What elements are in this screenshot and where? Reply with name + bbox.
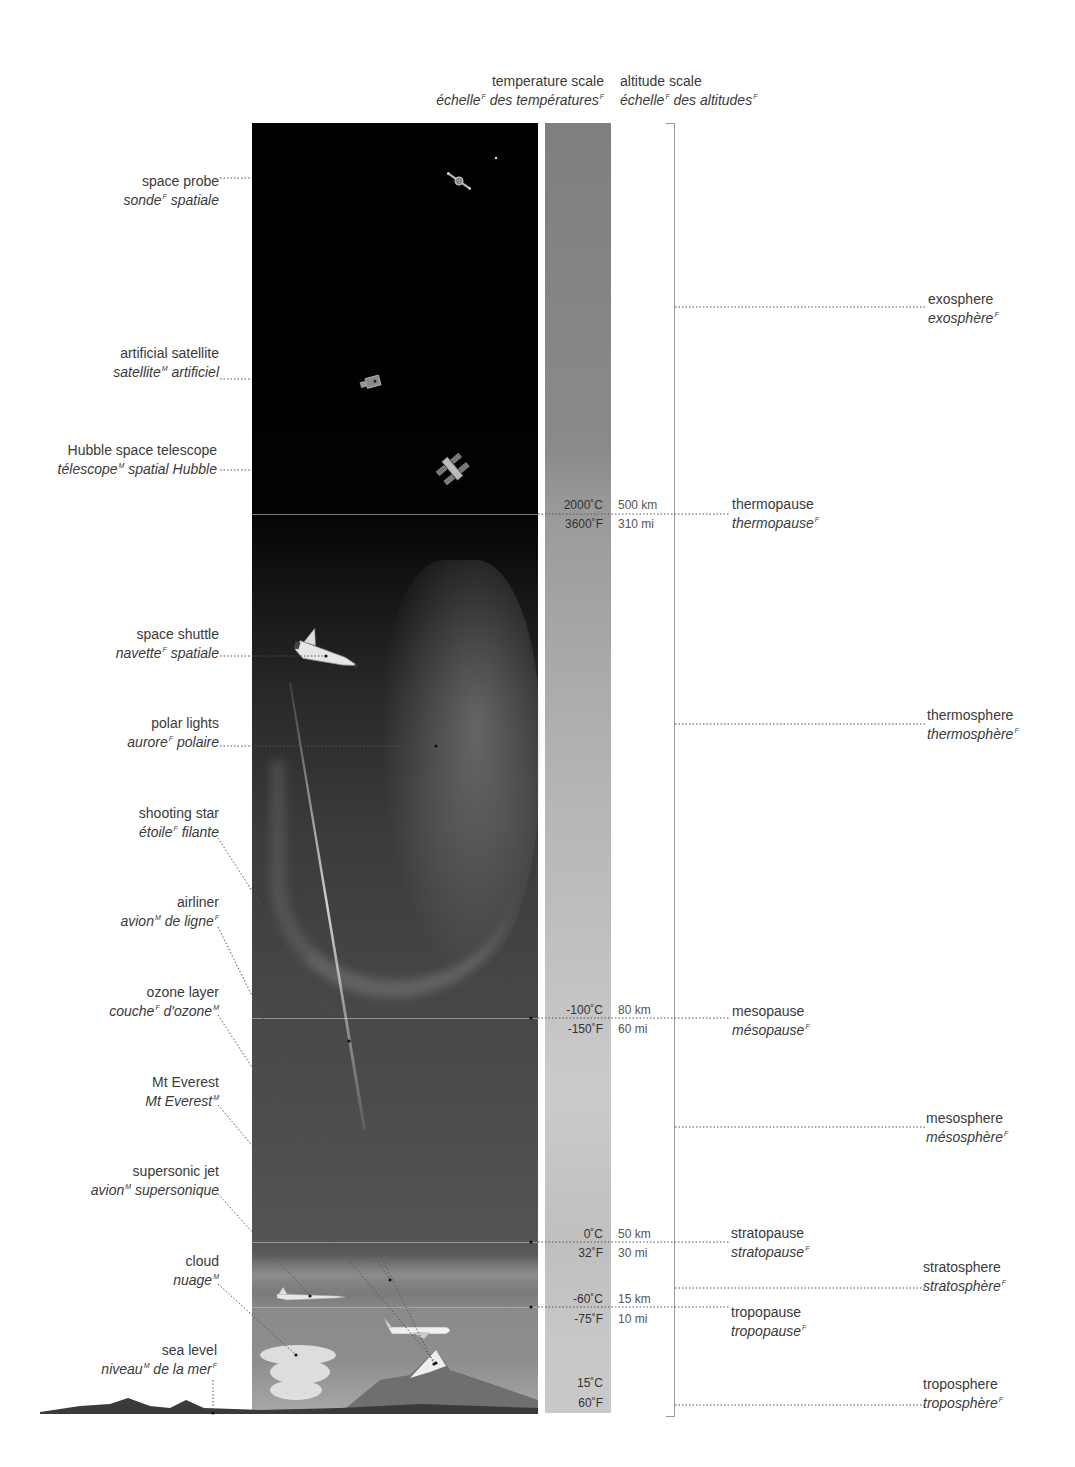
label-polar-lights: polar lights auroreF polaire xyxy=(127,714,219,752)
space-shuttle-icon xyxy=(291,624,365,675)
temp-thermopause-c: 2000˚C xyxy=(553,497,603,513)
alt-stratopause-km: 50 km xyxy=(618,1226,651,1242)
cloud-icon xyxy=(260,1345,336,1400)
alt-thermopause-mi: 310 mi xyxy=(618,516,654,532)
label-space-probe: space probe sondeF spatiale xyxy=(123,172,219,210)
alt-stratopause-mi: 30 mi xyxy=(618,1245,647,1261)
temp-tropopause-f: -75˚F xyxy=(553,1311,603,1327)
label-stratopause: stratopause stratopauseF xyxy=(731,1224,809,1262)
alt-tropopause-mi: 10 mi xyxy=(618,1311,647,1327)
label-space-shuttle: space shuttle navetteF spatiale xyxy=(116,625,219,663)
label-mt-everest: Mt Everest Mt EverestM xyxy=(145,1073,219,1111)
alt-mesopause-km: 80 km xyxy=(618,1002,651,1018)
label-mesosphere: mesosphere mésosphèreF xyxy=(926,1109,1008,1147)
temp-thermopause-f: 3600˚F xyxy=(553,516,603,532)
alt-tropopause-km: 15 km xyxy=(618,1291,651,1307)
temp-surface-c: 15˚C xyxy=(553,1375,603,1391)
space-probe-icon xyxy=(445,169,473,192)
hubble-telescope-icon xyxy=(434,450,472,487)
label-supersonic-jet: supersonic jet avionM supersonique xyxy=(91,1162,219,1200)
temp-mesopause-c: -100˚C xyxy=(553,1002,603,1018)
label-artificial-satellite: artificial satellite satelliteM artifici… xyxy=(113,344,219,382)
temp-stratopause-c: 0˚C xyxy=(553,1226,603,1242)
alt-mesopause-mi: 60 mi xyxy=(618,1021,647,1037)
label-hubble-telescope: Hubble space telescope télescopeM spatia… xyxy=(58,441,217,479)
artificial-satellite-icon xyxy=(359,375,381,390)
label-sea-level: sea level niveauM de la merF xyxy=(101,1341,217,1379)
label-tropopause: tropopause tropopauseF xyxy=(731,1303,806,1341)
shooting-star-icon xyxy=(289,682,366,1130)
alt-thermopause-km: 500 km xyxy=(618,497,657,513)
label-mesopause: mesopause mésopauseF xyxy=(732,1002,810,1040)
label-airliner: airliner avionM de ligneF xyxy=(120,893,219,931)
temp-tropopause-c: -60˚C xyxy=(553,1291,603,1307)
label-stratosphere: stratosphere stratosphèreF xyxy=(923,1258,1006,1296)
supersonic-jet-icon xyxy=(277,1287,345,1300)
label-cloud: cloud nuageM xyxy=(173,1252,219,1290)
temp-stratopause-f: 32˚F xyxy=(553,1245,603,1261)
label-ozone-layer: ozone layer coucheF d'ozoneM xyxy=(109,983,219,1021)
label-troposphere: troposphere troposphèreF xyxy=(923,1375,1003,1413)
label-thermosphere: thermosphere thermosphèreF xyxy=(927,706,1019,744)
label-exosphere: exosphere exosphèreF xyxy=(928,290,999,328)
temp-surface-f: 60˚F xyxy=(553,1395,603,1411)
label-thermopause: thermopause thermopauseF xyxy=(732,495,819,533)
label-shooting-star: shooting star étoileF filante xyxy=(139,804,219,842)
temp-mesopause-f: -150˚F xyxy=(553,1021,603,1037)
